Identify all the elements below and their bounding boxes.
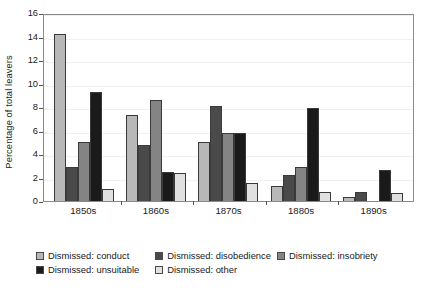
bar [295, 167, 307, 201]
chart-legend: Dismissed: conduct Dismissed: disobedien… [36, 249, 406, 277]
y-axis-title: Percentage of total leavers [2, 14, 16, 210]
bar-group [198, 15, 258, 201]
y-tick-mark [39, 14, 43, 15]
legend-item-unsuitable: Dismissed: unsuitable [36, 265, 139, 274]
y-tick-mark [39, 108, 43, 109]
bar-group [126, 15, 186, 201]
legend-item-conduct: Dismissed: conduct [36, 251, 129, 260]
bar-group [54, 15, 114, 201]
bar [150, 100, 162, 201]
y-axis-tick-labels: 0246810121416 [16, 14, 38, 202]
x-tick-label: 1890s [343, 205, 405, 225]
bar [355, 192, 367, 201]
bar [283, 175, 295, 201]
bar [271, 186, 283, 201]
bar [391, 193, 403, 201]
legend-swatch-conduct [36, 252, 44, 260]
y-tick-label: 2 [16, 174, 38, 183]
bar-groups [44, 15, 413, 201]
legend-label-unsuitable: Dismissed: unsuitable [48, 265, 139, 274]
x-tick-label: 1870s [197, 205, 259, 225]
y-tick-mark [39, 179, 43, 180]
y-tick-mark [39, 155, 43, 156]
bar-group [271, 15, 331, 201]
bar [162, 172, 174, 201]
legend-label-other: Dismissed: other [167, 265, 237, 274]
x-tick-label: 1880s [270, 205, 332, 225]
y-tick-mark [39, 202, 43, 203]
bar-chart-figure: Percentage of total leavers 024681012141… [0, 0, 429, 288]
bar [246, 183, 258, 201]
bar [126, 115, 138, 201]
plot-area [43, 14, 414, 202]
legend-item-other: Dismissed: other [155, 265, 237, 274]
bar [90, 92, 102, 201]
y-tick-label: 14 [16, 33, 38, 42]
bar [78, 142, 90, 201]
legend-label-conduct: Dismissed: conduct [48, 251, 129, 260]
y-tick-label: 12 [16, 56, 38, 65]
legend-row-2: Dismissed: unsuitable Dismissed: other [36, 263, 406, 277]
y-tick-label: 6 [16, 127, 38, 136]
bar [222, 133, 234, 201]
x-axis-tick-labels: 1850s1860s1870s1880s1890s [43, 205, 414, 225]
y-tick-mark [39, 61, 43, 62]
legend-label-insobriety: Dismissed: insobriety [289, 251, 378, 260]
bar [66, 167, 78, 201]
bar [379, 170, 391, 201]
legend-item-insobriety: Dismissed: insobriety [277, 251, 378, 260]
y-tick-label: 10 [16, 80, 38, 89]
bar [174, 173, 186, 201]
y-tick-mark [39, 132, 43, 133]
bar [210, 106, 222, 201]
bar [307, 108, 319, 201]
y-tick-mark [39, 38, 43, 39]
legend-swatch-other [155, 266, 163, 274]
bar [198, 142, 210, 201]
y-axis-title-text: Percentage of total leavers [4, 55, 14, 168]
y-tick-label: 16 [16, 9, 38, 18]
x-tick-label: 1860s [125, 205, 187, 225]
legend-swatch-insobriety [277, 252, 285, 260]
y-tick-mark [39, 85, 43, 86]
legend-item-disobedience: Dismissed: disobedience [155, 251, 271, 260]
bar [234, 133, 246, 201]
chart-plot-region: Percentage of total leavers 024681012141… [0, 0, 429, 236]
bar [138, 145, 150, 201]
bar [319, 192, 331, 201]
y-tick-label: 4 [16, 150, 38, 159]
legend-swatch-disobedience [155, 252, 163, 260]
bar [343, 197, 355, 201]
legend-row-1: Dismissed: conduct Dismissed: disobedien… [36, 249, 406, 263]
legend-label-disobedience: Dismissed: disobedience [167, 251, 271, 260]
bar [54, 34, 66, 201]
y-tick-label: 0 [16, 197, 38, 206]
x-tick-label: 1850s [52, 205, 114, 225]
bar [102, 189, 114, 201]
y-tick-label: 8 [16, 103, 38, 112]
legend-swatch-unsuitable [36, 266, 44, 274]
bar-group [343, 15, 403, 201]
